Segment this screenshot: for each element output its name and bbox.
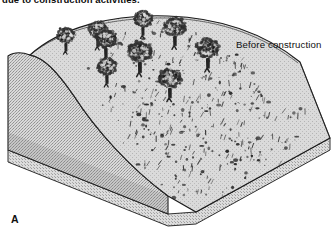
figure-block-diagram: due to construction activities. bbox=[0, 0, 334, 244]
cropped-caption-strip: due to construction activities. bbox=[0, 0, 334, 6]
panel-letter-label: A bbox=[11, 213, 19, 225]
diagram-canvas bbox=[0, 0, 334, 244]
label-before-construction: Before construction bbox=[236, 39, 322, 50]
cropped-caption-text: due to construction activities. bbox=[2, 0, 140, 6]
